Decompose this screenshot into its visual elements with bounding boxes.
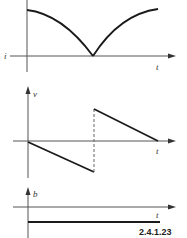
figure-canvas: i t v t b t 2.4.1.23 xyxy=(0,0,187,238)
falling-arc xyxy=(27,10,93,56)
t-axis-arrow-icon xyxy=(168,205,176,210)
y-axis-arrow-icon xyxy=(26,86,31,94)
t-axis-label: t xyxy=(156,62,159,72)
t-axis-arrow-icon xyxy=(168,139,176,144)
panel-current: i t xyxy=(4,0,176,72)
y-axis-label-b: b xyxy=(33,189,38,199)
t-axis-label: t xyxy=(156,210,159,220)
y-axis-label-v: v xyxy=(33,89,37,99)
t-axis-label: t xyxy=(156,146,159,156)
ramp-down-1 xyxy=(28,142,94,172)
y-axis-arrow-icon xyxy=(26,187,31,195)
rising-arc xyxy=(93,9,158,56)
ramp-down-2 xyxy=(94,109,158,141)
figure-caption: 2.4.1.23 xyxy=(139,227,172,237)
panel-voltage: v t xyxy=(13,86,176,178)
y-axis-label-i: i xyxy=(4,51,7,61)
t-axis-arrow-icon xyxy=(168,54,176,59)
